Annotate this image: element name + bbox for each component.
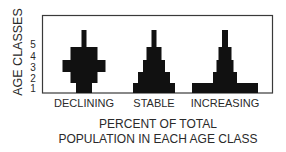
y-tick-label: 2 [30,73,36,84]
y-tick-label: 4 [30,51,36,62]
bar-age-class-3 [143,60,165,72]
bar-age-class-1 [133,83,175,93]
category-label-stable: STABLE [133,97,174,109]
bar-age-class-2 [213,72,237,83]
pyramid-declining [63,30,106,93]
category-label-declining: DECLINING [54,97,114,109]
pyramid-stable [133,30,175,93]
y-tick-label: 1 [30,83,36,94]
bar-age-class-3 [217,60,234,72]
y-tick-label: 3 [30,62,36,73]
bar-age-class-2 [138,72,170,83]
bar-age-class-4 [219,47,232,60]
y-tick-label: 5 [30,39,36,50]
bar-age-class-3 [63,60,106,72]
bar-age-class-2 [71,72,98,83]
y-axis-label: AGE CLASSES [11,8,25,96]
bar-age-class-5 [152,30,157,47]
y-tick-labels: 12345 [30,39,36,94]
x-axis-label-line-1: PERCENT OF TOTAL [99,117,217,131]
bar-age-class-1 [76,83,92,93]
age-structure-figure: AGE CLASSES 12345 DECLININGSTABLEINCREAS… [0,0,286,152]
pyramid-increasing [192,30,258,93]
bar-age-class-5 [222,30,228,47]
bar-age-class-4 [147,47,162,60]
category-label-increasing: INCREASING [191,97,259,109]
bar-age-class-5 [82,30,87,47]
x-axis-label-line-2: POPULATION IN EACH AGE CLASS [58,132,257,146]
bar-age-class-1 [192,83,258,93]
pyramids [63,30,259,93]
bar-age-class-4 [71,47,98,60]
category-labels: DECLININGSTABLEINCREASING [54,97,259,109]
